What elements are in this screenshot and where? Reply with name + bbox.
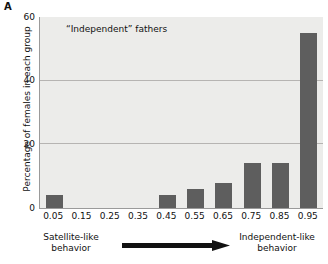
- x-tick-0.15: 0.15: [67, 211, 95, 221]
- x-tick-0.35: 0.35: [124, 211, 152, 221]
- plot-inner: “Independent” fathers: [40, 17, 323, 208]
- bar-slot: [97, 17, 125, 208]
- x-tick-0.75: 0.75: [237, 211, 265, 221]
- bar[interactable]: [300, 33, 317, 208]
- bar[interactable]: [244, 163, 261, 208]
- bar[interactable]: [215, 183, 232, 208]
- x-tick-0.55: 0.55: [180, 211, 208, 221]
- x-tick-0.95: 0.95: [294, 211, 322, 221]
- bar-series: [40, 17, 323, 208]
- annotation-left-line1: Satellite-like: [24, 232, 118, 243]
- x-tick-0.65: 0.65: [209, 211, 237, 221]
- x-tick-0.85: 0.85: [265, 211, 293, 221]
- bar-slot: [40, 17, 68, 208]
- bar-slot: [153, 17, 181, 208]
- x-tick-0.45: 0.45: [152, 211, 180, 221]
- annotation-right: Independent-like behavior: [230, 232, 324, 254]
- bar[interactable]: [159, 195, 176, 208]
- axis-annotation: Satellite-like behavior Independent-like…: [24, 230, 324, 262]
- annotation-left-line2: behavior: [24, 243, 118, 254]
- y-axis-label: Percentage of females in each group: [22, 19, 32, 199]
- x-tick-0.25: 0.25: [96, 211, 124, 221]
- bar-slot: [295, 17, 323, 208]
- bar-slot: [238, 17, 266, 208]
- bar[interactable]: [46, 195, 63, 208]
- annotation-right-line2: behavior: [230, 243, 324, 254]
- bar-slot: [181, 17, 209, 208]
- x-axis-tick-labels: 0.050.150.250.350.450.550.650.750.850.95: [39, 211, 322, 221]
- bar-slot: [210, 17, 238, 208]
- panel-letter: A: [4, 1, 12, 12]
- bar[interactable]: [187, 189, 204, 208]
- plot-area: “Independent” fathers: [39, 17, 323, 209]
- bar-slot: [125, 17, 153, 208]
- x-tick-0.05: 0.05: [39, 211, 67, 221]
- direction-arrow-icon: [122, 240, 230, 251]
- y-tick-0: 0: [6, 204, 35, 213]
- annotation-left: Satellite-like behavior: [24, 232, 118, 254]
- annotation-right-line1: Independent-like: [230, 232, 324, 243]
- bar-slot: [68, 17, 96, 208]
- bar[interactable]: [272, 163, 289, 208]
- bar-slot: [266, 17, 294, 208]
